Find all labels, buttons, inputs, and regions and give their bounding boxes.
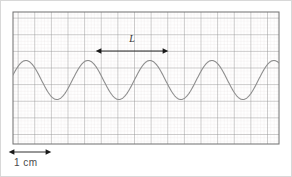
wave-diagram-figure: L 1 cm bbox=[0, 0, 292, 177]
wavelength-label: L bbox=[128, 33, 135, 44]
wave-plot-canvas: L bbox=[1, 1, 292, 177]
grid-group bbox=[13, 12, 279, 144]
scale-bar-label: 1 cm bbox=[14, 157, 38, 168]
grid-lines bbox=[13, 12, 279, 144]
